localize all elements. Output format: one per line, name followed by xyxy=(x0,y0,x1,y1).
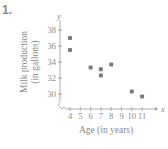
x-axis-arrow xyxy=(155,107,158,111)
data-point xyxy=(89,66,93,70)
axis-break-y xyxy=(58,101,60,107)
x-axis-letter: x xyxy=(160,104,165,114)
x-tick-label: 6 xyxy=(88,111,92,121)
data-point xyxy=(109,62,113,66)
x-tick-label: 7 xyxy=(99,111,103,121)
x-tick-label: 9 xyxy=(119,111,123,121)
y-axis-letter: y xyxy=(56,11,61,21)
y-tick-label: 30 xyxy=(48,89,57,99)
data-point xyxy=(68,48,72,52)
data-point xyxy=(68,36,72,40)
y-tick-label: 32 xyxy=(48,73,57,83)
data-point xyxy=(99,67,103,71)
y-tick-label: 34 xyxy=(48,57,57,67)
scatter-plot: yx30323436384567891011Age (in years)Milk… xyxy=(0,0,168,149)
x-tick-label: 4 xyxy=(68,111,73,121)
data-point xyxy=(130,90,134,94)
axis-break-x xyxy=(60,107,66,109)
x-tick-label: 11 xyxy=(138,111,146,121)
y-tick-label: 36 xyxy=(48,41,57,51)
x-axis-label: Age (in years) xyxy=(79,125,133,136)
data-point xyxy=(99,74,103,78)
y-axis-label: Milk production(in gallons) xyxy=(19,31,41,93)
x-tick-label: 10 xyxy=(128,111,137,121)
x-tick-label: 5 xyxy=(78,111,82,121)
data-point xyxy=(140,94,144,98)
y-tick-label: 38 xyxy=(48,25,57,35)
x-tick-label: 8 xyxy=(109,111,113,121)
